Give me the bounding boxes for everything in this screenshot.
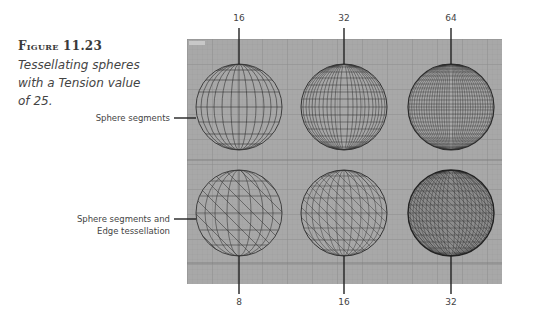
viewport-label-front — [189, 41, 205, 45]
row-label-line: Sphere segments and — [40, 213, 170, 225]
top-label-32: 32 — [329, 13, 359, 23]
bottom-label-16: 16 — [329, 297, 359, 307]
bottom-label-32: 32 — [436, 297, 466, 307]
top-label-64: 64 — [436, 13, 466, 23]
row-label-edge-tessellation: Sphere segments and Edge tessellation — [40, 213, 170, 237]
tessellation-figure — [0, 0, 536, 322]
top-label-16: 16 — [224, 13, 254, 23]
bottom-label-8: 8 — [224, 297, 254, 307]
row-label-sphere-segments: Sphere segments — [60, 112, 170, 124]
row-label-line: Edge tessellation — [40, 225, 170, 237]
